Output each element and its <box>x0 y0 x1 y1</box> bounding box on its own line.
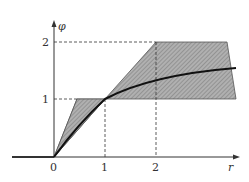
x-axis-arrow-icon <box>233 155 240 160</box>
x-tick-1: 1 <box>101 161 108 174</box>
x-axis-label: r <box>228 161 234 174</box>
x-tick-0: 0 <box>50 161 57 174</box>
y-axis-label: φ <box>58 20 66 33</box>
x-tick-2: 2 <box>152 161 159 174</box>
y-tick-1: 1 <box>42 93 49 106</box>
y-axis-arrow-icon <box>52 20 57 27</box>
phi-r-diagram: φ r 0 1 2 1 2 <box>0 0 249 182</box>
y-tick-2: 2 <box>42 36 49 49</box>
